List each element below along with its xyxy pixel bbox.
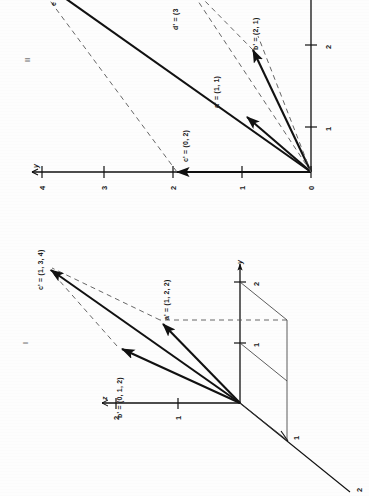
figure-one-id-label: I xyxy=(22,342,29,344)
figure-two-vtick-2: 2 xyxy=(325,45,333,49)
figure-one-vector-label-a: a' = (1, 2, 2) xyxy=(163,280,170,320)
figure-page: y 0 1 2 3 4 1 2 c' = (0, 2) a' = (1, 1) … xyxy=(0,0,369,496)
figure-one-ztick-1: 1 xyxy=(175,416,183,420)
figure-two-vector-label-b: b' = (2, 1) xyxy=(252,18,259,50)
figure-one-vector-label-b: b' = (0, 1, 2) xyxy=(116,377,123,418)
figure-one-vector-label-c: c' = (1, 3, 4) xyxy=(37,250,44,290)
figure-two-vector-label-a: a' = (1, 1) xyxy=(213,76,220,108)
figure-one-reference-box xyxy=(240,282,287,440)
figure-two-vector-label-d: d' = (3 xyxy=(172,8,179,30)
figure-one-ytick-1: 1 xyxy=(253,343,261,347)
figure-two-vtick-1: 1 xyxy=(325,127,333,131)
figure-one-ytick-2: 2 xyxy=(253,282,261,286)
figure-one-axis-label-y: y xyxy=(236,260,243,264)
figure-one-vectors xyxy=(51,270,240,403)
figure-two-vector-label-c: c' = (0, 2) xyxy=(182,130,189,162)
figure-two-vertical-axis xyxy=(305,0,317,172)
figure-two-axis-label-y: y xyxy=(32,164,39,168)
figure-one-xtick-2: 2 xyxy=(356,488,364,492)
figure-two-id-label: II xyxy=(24,58,31,62)
figure-one-panel: y z 1 2 1 2 1 2 a' = (1, 2, 2) b' = (0, … xyxy=(0,248,369,496)
figure-one-y-axis xyxy=(234,264,246,403)
figure-one-axis-label-z: z xyxy=(101,396,108,400)
figure-one-xtick-1: 1 xyxy=(293,436,301,440)
figure-two-construction-lines xyxy=(48,0,311,172)
figure-two-htick-0: 0 xyxy=(308,186,316,190)
figure-two-panel: y 0 1 2 3 4 1 2 c' = (0, 2) a' = (1, 1) … xyxy=(0,0,369,248)
figure-two-htick-3: 3 xyxy=(101,186,109,190)
figure-two-htick-2: 2 xyxy=(170,186,178,190)
figure-two-vector-label-e: e xyxy=(50,2,57,6)
figure-two-htick-1: 1 xyxy=(239,186,247,190)
figure-two-htick-4: 4 xyxy=(39,186,47,190)
figure-one-svg xyxy=(0,248,369,496)
figure-two-svg xyxy=(0,0,369,248)
